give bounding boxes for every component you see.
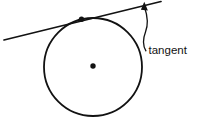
geometry-diagram-canvas: tangent [0, 0, 200, 117]
tangent-point-dot [79, 17, 84, 22]
diagram-svg: tangent [0, 0, 200, 117]
tangent-label: tangent [149, 44, 188, 56]
leader-line [143, 7, 147, 51]
center-point-dot [90, 63, 95, 68]
